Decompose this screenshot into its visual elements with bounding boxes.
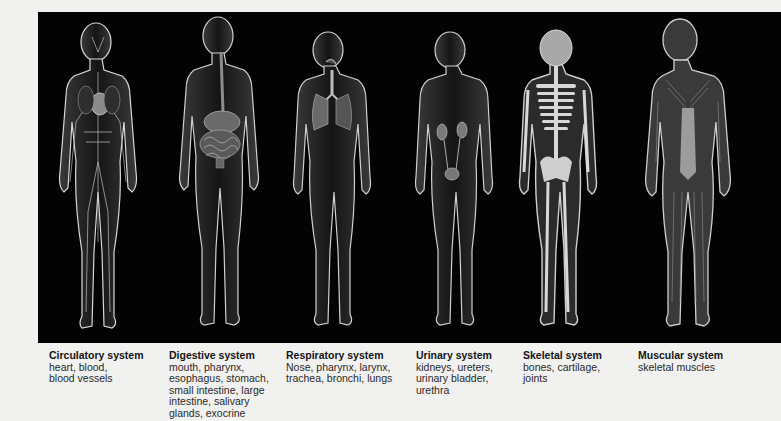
caption-urinary: Urinary system kidneys, ureters, urinary…	[416, 350, 493, 396]
caption-circulatory: Circulatory system heart, blood, blood v…	[49, 350, 144, 385]
digestive-figure-icon	[166, 12, 266, 343]
caption-digestive: Digestive system mouth, pharynx, esophag…	[169, 350, 269, 420]
caption-description: Nose, pharynx, larynx, trachea, bronchi,…	[286, 362, 392, 385]
urinary-figure-icon	[404, 12, 504, 343]
caption-title: Digestive system	[169, 350, 269, 362]
caption-respiratory: Respiratory system Nose, pharynx, larynx…	[286, 350, 392, 385]
caption-muscular: Muscular system skeletal muscles	[638, 350, 723, 373]
caption-title: Circulatory system	[49, 350, 144, 362]
caption-title: Skeletal system	[523, 350, 602, 362]
caption-description: bones, cartilage, joints	[523, 362, 602, 385]
anatomy-illustration-panel	[38, 12, 781, 343]
caption-description: skeletal muscles	[638, 362, 723, 374]
caption-description: mouth, pharynx, esophagus, stomach, smal…	[169, 362, 269, 420]
caption-description: kidneys, ureters, urinary bladder, ureth…	[416, 362, 493, 397]
circulatory-figure-icon	[48, 12, 148, 343]
muscular-figure-icon	[638, 12, 748, 343]
caption-title: Urinary system	[416, 350, 493, 362]
respiratory-figure-icon	[286, 12, 386, 343]
caption-description: heart, blood, blood vessels	[49, 362, 144, 385]
caption-title: Muscular system	[638, 350, 723, 362]
skeletal-figure-icon	[506, 12, 606, 343]
caption-skeletal: Skeletal system bones, cartilage, joints	[523, 350, 602, 385]
caption-title: Respiratory system	[286, 350, 392, 362]
